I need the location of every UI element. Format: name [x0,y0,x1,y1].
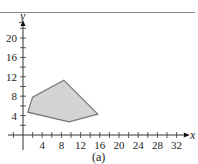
x-tick-label: 8 [59,139,65,151]
x-tick-label: 24 [133,139,145,151]
feasible-region-polygon [28,80,98,122]
y-tick-label: 16 [6,51,18,63]
y-tick-label: 8 [12,90,18,102]
y-tick-label: 12 [6,71,17,83]
x-tick-label: 28 [152,139,164,151]
x-tick-label: 32 [171,139,182,151]
x-axis-label: x [189,128,196,142]
x-tick-label: 12 [75,139,86,151]
figure-caption: (a) [92,150,105,164]
x-tick-label: 20 [114,139,126,151]
y-tick-label: 4 [12,110,18,122]
y-tick-label: 20 [6,32,18,44]
y-axis-label: y [19,9,26,23]
x-axis-arrow-icon [184,133,190,138]
chart: 4812162024283248121620 x y (a) [0,0,198,164]
axes: 4812162024283248121620 [6,20,190,151]
x-tick-label: 4 [39,139,45,151]
